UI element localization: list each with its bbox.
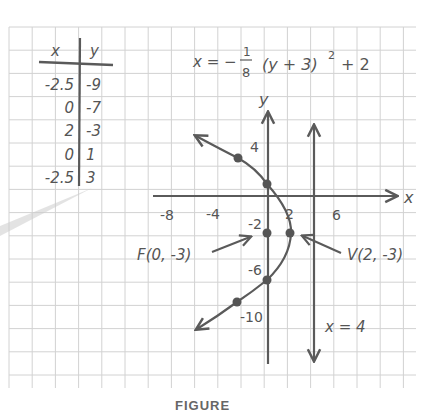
equation-tail: + 2 bbox=[341, 55, 370, 74]
y-tick-label: -10 bbox=[240, 309, 263, 325]
equation-lhs: x = − bbox=[192, 53, 237, 71]
equation-fraction-numerator: 1 bbox=[243, 45, 251, 59]
point-marker bbox=[234, 154, 243, 163]
table-cell-x: -2.5 bbox=[45, 169, 74, 187]
equation-exponent: 2 bbox=[328, 49, 335, 62]
equation-body: (y + 3) bbox=[262, 55, 318, 74]
equation-fraction-denominator: 8 bbox=[242, 65, 250, 80]
table-cell-y: 1 bbox=[86, 146, 96, 164]
table-cell-y: -3 bbox=[86, 122, 101, 140]
y-tick-label: -6 bbox=[248, 262, 262, 278]
y-axis-label: y bbox=[258, 90, 269, 109]
y-tick-label: -2 bbox=[248, 216, 262, 232]
point-marker bbox=[263, 276, 272, 285]
y-tick-label: 4 bbox=[250, 139, 259, 155]
figure-caption: FIGURE bbox=[175, 398, 230, 413]
x-axis-label: x bbox=[403, 188, 414, 207]
x-tick-label: -4 bbox=[206, 206, 220, 222]
table-header-x: x bbox=[50, 42, 60, 60]
vertex-pointer-arrow bbox=[303, 236, 341, 253]
focus-marker bbox=[263, 229, 272, 238]
table-column-rule bbox=[79, 38, 80, 186]
table-cell-y: 3 bbox=[86, 169, 96, 187]
point-marker bbox=[233, 298, 242, 307]
table-cell-x: 0 bbox=[64, 99, 74, 117]
parabola-curve bbox=[196, 136, 291, 329]
vertex-marker bbox=[286, 229, 295, 238]
table-header-y: y bbox=[89, 42, 100, 60]
table-cell-y: -7 bbox=[86, 99, 101, 117]
x-tick-label: -8 bbox=[160, 207, 174, 223]
table-cell-y: -9 bbox=[86, 76, 101, 94]
vertex-label: V(2, -3) bbox=[347, 246, 403, 264]
table-cell-x: -2.5 bbox=[45, 76, 74, 94]
point-marker bbox=[263, 180, 272, 189]
table-cell-x: 2 bbox=[64, 122, 74, 140]
focus-label: F(0, -3) bbox=[137, 246, 191, 264]
x-tick-label: 6 bbox=[332, 207, 341, 223]
table-cell-x: 0 bbox=[64, 146, 74, 164]
directrix-label: x = 4 bbox=[324, 318, 366, 336]
